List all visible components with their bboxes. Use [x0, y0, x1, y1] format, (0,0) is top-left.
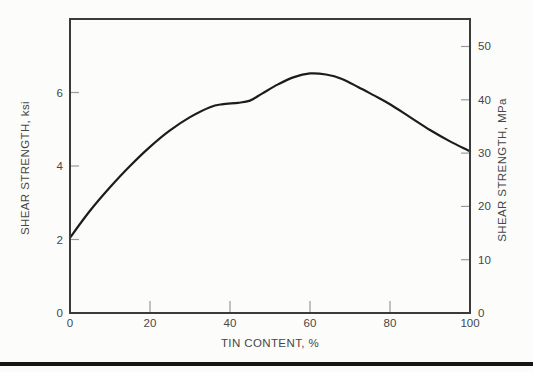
right-axis-title: SHEAR STRENGTH, MPa [496, 98, 508, 242]
x-tick-label: 60 [304, 317, 317, 329]
x-tick-label: 20 [144, 317, 157, 329]
page-bottom-rule [0, 362, 533, 366]
x-tick-label: 0 [67, 317, 73, 329]
shear-strength-curve [70, 73, 470, 237]
right-tick-label: 40 [478, 94, 491, 106]
axis-ticks-layer: 020406080100024601020304050 [57, 40, 491, 329]
left-tick-label: 4 [57, 160, 64, 172]
x-tick-label: 40 [224, 317, 237, 329]
left-tick-label: 0 [57, 307, 63, 319]
right-tick-label: 20 [478, 200, 491, 212]
figure-page: 020406080100024601020304050 TIN CONTENT,… [0, 0, 533, 372]
shear-strength-line-chart: 020406080100024601020304050 TIN CONTENT,… [0, 0, 533, 372]
x-axis-title: TIN CONTENT, % [221, 337, 319, 349]
left-tick-label: 2 [57, 234, 63, 246]
right-tick-label: 50 [478, 40, 491, 52]
right-tick-label: 10 [478, 254, 491, 266]
left-axis-title: SHEAR STRENGTH, ksi [19, 101, 31, 235]
x-tick-label: 80 [384, 317, 397, 329]
right-tick-label: 0 [478, 307, 484, 319]
right-tick-label: 30 [478, 147, 491, 159]
left-tick-label: 6 [57, 87, 63, 99]
x-tick-label: 100 [460, 317, 479, 329]
